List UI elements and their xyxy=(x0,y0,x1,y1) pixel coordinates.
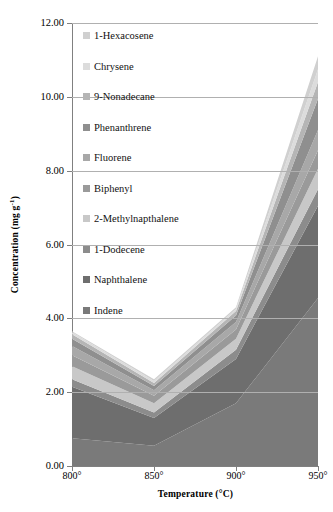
legend-item-label: Fluorene xyxy=(94,152,131,163)
y-axis-tick-label: 12.00 xyxy=(20,18,64,28)
x-axis-title: Temperature (°C) xyxy=(72,489,319,499)
legend-swatch-icon xyxy=(83,276,90,283)
y-axis-tickmark xyxy=(67,23,72,24)
legend-swatch-icon xyxy=(83,124,90,131)
legend-swatch-icon xyxy=(83,246,90,253)
legend-item-label: Biphenyl xyxy=(94,183,133,194)
legend-item-label: 2-Methylnapthalene xyxy=(94,213,179,224)
y-axis-tick-label: 10.00 xyxy=(20,92,64,102)
x-axis-line xyxy=(72,466,319,467)
y-axis-tickmark xyxy=(67,392,72,393)
legend-item-label: 1-Hexacosene xyxy=(94,30,153,41)
legend-swatch-icon xyxy=(83,307,90,314)
legend-swatch-icon xyxy=(83,63,90,70)
y-axis-tickmark xyxy=(67,171,72,172)
y-axis-tick-labels: 0.002.004.006.008.0010.0012.00 xyxy=(18,0,64,512)
legend-item[interactable]: Naphthalene xyxy=(83,274,233,305)
stacked-area-chart: Concentration (mg g-1) 0.002.004.006.008… xyxy=(0,0,333,512)
x-axis-tick-label: 900° xyxy=(206,470,266,482)
y-axis-tickmark xyxy=(67,318,72,319)
y-axis-tick-label: 2.00 xyxy=(20,387,64,397)
legend-item[interactable]: 2-Methylnapthalene xyxy=(83,213,233,244)
legend-item[interactable]: Fluorene xyxy=(83,152,233,183)
gridline xyxy=(72,23,318,24)
legend-item[interactable]: Biphenyl xyxy=(83,183,233,214)
x-axis-tick-label: 950° xyxy=(288,470,333,482)
y-axis-tickmark xyxy=(67,97,72,98)
legend-item[interactable]: 9-Nonadecane xyxy=(83,91,233,122)
legend-item[interactable]: 1-Hexacosene xyxy=(83,30,233,61)
legend-swatch-icon xyxy=(83,93,90,100)
legend-item[interactable]: Chrysene xyxy=(83,61,233,92)
legend-item-label: 1-Dodecene xyxy=(94,244,145,255)
legend-item-label: Chrysene xyxy=(94,61,134,72)
x-axis-tick-label: 850° xyxy=(124,470,184,482)
legend-item-label: Indene xyxy=(94,305,123,316)
gridline xyxy=(72,392,318,393)
legend-item-label: 9-Nonadecane xyxy=(94,91,155,102)
y-axis-tick-label: 6.00 xyxy=(20,240,64,250)
y-axis-tick-label: 4.00 xyxy=(20,313,64,323)
legend-swatch-icon xyxy=(83,215,90,222)
legend-item-label: Phenanthrene xyxy=(94,122,151,133)
chart-legend: 1-HexacoseneChrysene9-NonadecanePhenanth… xyxy=(83,30,233,335)
legend-swatch-icon xyxy=(83,32,90,39)
x-axis-tick-label: 800° xyxy=(42,470,102,482)
legend-swatch-icon xyxy=(83,185,90,192)
x-axis-tick-labels: 800°850°900°950° xyxy=(72,470,319,484)
legend-item[interactable]: Phenanthrene xyxy=(83,122,233,153)
y-axis-tickmark xyxy=(67,245,72,246)
legend-item-label: Naphthalene xyxy=(94,274,147,285)
legend-item[interactable]: Indene xyxy=(83,305,233,336)
y-axis-tick-label: 8.00 xyxy=(20,166,64,176)
legend-item[interactable]: 1-Dodecene xyxy=(83,244,233,275)
y-axis-title-superscript: -1 xyxy=(8,199,16,205)
legend-swatch-icon xyxy=(83,154,90,161)
